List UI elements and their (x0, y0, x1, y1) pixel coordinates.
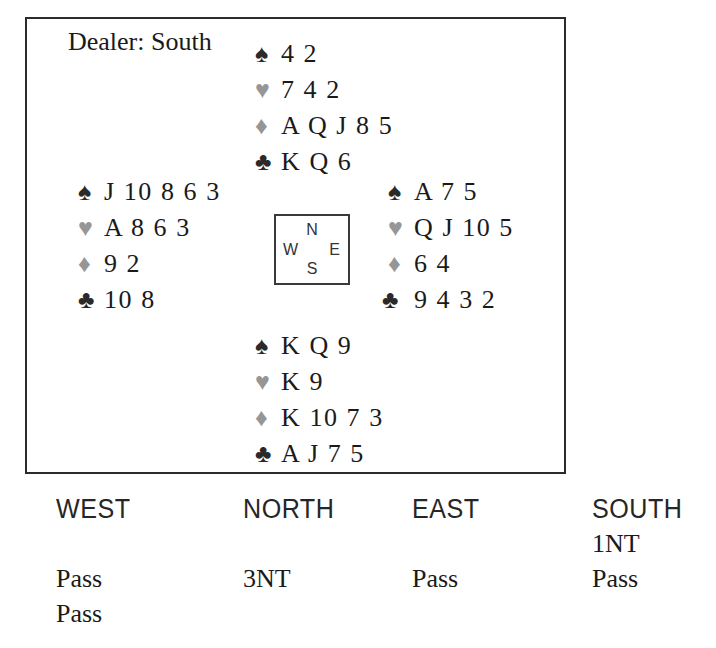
auction-cell-west-1 (56, 526, 136, 561)
hand-east-spades: ♠ A 7 5 (388, 174, 514, 210)
club-icon: ♣ (255, 436, 281, 472)
hand-east-diamonds: ♦ 6 4 (388, 246, 514, 282)
auction-column-west: WEST Pass Pass (56, 492, 136, 631)
hand-north-hearts-cards: 7 4 2 (281, 72, 341, 108)
compass-south-label: S (307, 261, 318, 277)
heart-icon: ♥ (255, 364, 281, 400)
dealer-label: Dealer: South (68, 29, 212, 55)
hand-diagram-frame: Dealer: South ♠ 4 2 ♥ 7 4 2 ♦ A Q J 8 5 … (25, 17, 566, 474)
auction-cell-east-1 (412, 526, 485, 561)
spade-icon: ♠ (78, 174, 104, 210)
hand-east-diamonds-cards: 6 4 (414, 246, 451, 282)
hand-west-diamonds: ♦ 9 2 (78, 246, 221, 282)
hand-south-diamonds: ♦ K 10 7 3 (255, 400, 384, 436)
hand-north-hearts: ♥ 7 4 2 (255, 72, 393, 108)
compass-east-label: E (329, 242, 340, 258)
compass-box: N W E S (274, 214, 350, 285)
spade-icon: ♠ (255, 36, 281, 72)
auction-header-north: NORTH (243, 492, 334, 526)
hand-east: ♠ A 7 5 ♥ Q J 10 5 ♦ 6 4 ♣ 9 4 3 2 (388, 174, 514, 318)
diamond-icon: ♦ (388, 246, 414, 282)
hand-east-hearts-cards: Q J 10 5 (414, 210, 514, 246)
auction-cell-south-2: Pass (592, 561, 689, 596)
spade-icon: ♠ (255, 328, 281, 364)
auction-cell-north-3 (243, 596, 341, 631)
auction-cell-east-2: Pass (412, 561, 485, 596)
hand-north-spades-cards: 4 2 (281, 36, 318, 72)
auction-cell-north-1 (243, 526, 341, 561)
auction-cell-west-3: Pass (56, 596, 136, 631)
hand-south-clubs-cards: A J 7 5 (281, 436, 365, 472)
auction-cell-south-3 (592, 596, 689, 631)
hand-south: ♠ K Q 9 ♥ K 9 ♦ K 10 7 3 ♣ A J 7 5 (255, 328, 384, 472)
auction-column-north: NORTH 3NT (243, 492, 341, 631)
hand-east-hearts: ♥ Q J 10 5 (388, 210, 514, 246)
auction-cell-west-2: Pass (56, 561, 136, 596)
club-icon: ♣ (382, 282, 414, 318)
hand-south-hearts: ♥ K 9 (255, 364, 384, 400)
hand-south-clubs: ♣ A J 7 5 (255, 436, 384, 472)
heart-icon: ♥ (255, 72, 281, 108)
hand-west-hearts-cards: A 8 6 3 (104, 210, 191, 246)
auction-cell-south-1: 1NT (592, 526, 689, 561)
hand-north-clubs-cards: K Q 6 (281, 144, 352, 180)
hand-south-diamonds-cards: K 10 7 3 (281, 400, 384, 436)
auction-header-east: EAST (412, 492, 480, 526)
auction-header-south: SOUTH (592, 492, 682, 526)
diamond-icon: ♦ (255, 108, 281, 144)
club-icon: ♣ (255, 144, 281, 180)
club-icon: ♣ (78, 282, 104, 318)
auction-column-east: EAST Pass (412, 492, 485, 631)
hand-north-diamonds-cards: A Q J 8 5 (281, 108, 393, 144)
auction-column-south: SOUTH 1NT Pass (592, 492, 689, 631)
auction-cell-north-2: 3NT (243, 561, 341, 596)
compass-west-label: W (283, 242, 298, 258)
hand-west-spades: ♠ J 10 8 6 3 (78, 174, 221, 210)
hand-east-clubs: ♣ 9 4 3 2 (388, 282, 514, 318)
hand-west-diamonds-cards: 9 2 (104, 246, 141, 282)
spade-icon: ♠ (388, 174, 414, 210)
hand-north-diamonds: ♦ A Q J 8 5 (255, 108, 393, 144)
hand-west: ♠ J 10 8 6 3 ♥ A 8 6 3 ♦ 9 2 ♣ 10 8 (78, 174, 221, 318)
hand-south-spades-cards: K Q 9 (281, 328, 352, 364)
hand-east-clubs-cards: 9 4 3 2 (414, 282, 496, 318)
hand-west-hearts: ♥ A 8 6 3 (78, 210, 221, 246)
hand-west-clubs-cards: 10 8 (104, 282, 156, 318)
hand-south-spades: ♠ K Q 9 (255, 328, 384, 364)
diamond-icon: ♦ (255, 400, 281, 436)
diamond-icon: ♦ (78, 246, 104, 282)
hand-west-spades-cards: J 10 8 6 3 (104, 174, 221, 210)
compass-north-label: N (306, 222, 318, 238)
hand-east-spades-cards: A 7 5 (414, 174, 478, 210)
auction-cell-east-3 (412, 596, 485, 631)
auction-header-west: WEST (56, 492, 131, 526)
hand-south-hearts-cards: K 9 (281, 364, 324, 400)
auction-table: WEST Pass Pass NORTH 3NT EAST Pass SOUTH… (0, 492, 716, 642)
hand-north-spades: ♠ 4 2 (255, 36, 393, 72)
hand-west-clubs: ♣ 10 8 (78, 282, 221, 318)
heart-icon: ♥ (78, 210, 104, 246)
hand-north: ♠ 4 2 ♥ 7 4 2 ♦ A Q J 8 5 ♣ K Q 6 (255, 36, 393, 180)
hand-north-clubs: ♣ K Q 6 (255, 144, 393, 180)
heart-icon: ♥ (388, 210, 414, 246)
